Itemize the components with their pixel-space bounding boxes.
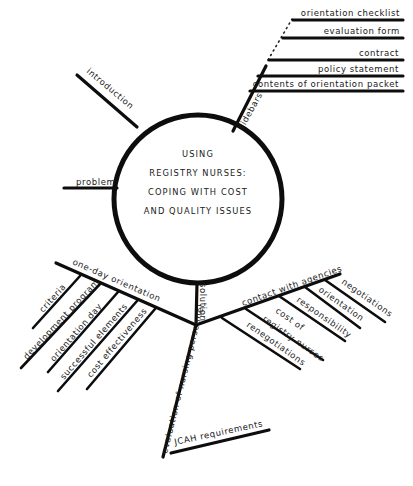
center-title-line-2: REGISTRY NURSES: bbox=[149, 168, 246, 178]
contact-with-agencies-label: contact with agencies bbox=[240, 263, 343, 308]
branch-sidebars: sidebars orientation checklist evaluatio… bbox=[233, 8, 403, 131]
sidebar-item-policy-statement: policy statement bbox=[318, 64, 399, 74]
sidebar-item-contract: contract bbox=[359, 48, 399, 58]
branch-introduction: introduction bbox=[77, 66, 137, 127]
center-title-line-4: AND QUALITY ISSUES bbox=[144, 206, 252, 216]
sidebar-item-evaluation-form: evaluation form bbox=[324, 26, 400, 36]
problem-label: problem bbox=[76, 177, 115, 187]
branch-problem: problem bbox=[64, 177, 117, 188]
central-node: USING REGISTRY NURSES: COPING WITH COST … bbox=[114, 115, 282, 283]
sidebar-item-contents-of-orientation-packet: contents of orientation packet bbox=[253, 79, 399, 89]
center-title-line-1: USING bbox=[182, 149, 214, 159]
sidebar-item-orientation-checklist: orientation checklist bbox=[301, 8, 400, 18]
center-title-line-3: COPING WITH COST bbox=[148, 187, 248, 197]
mind-map-diagram: USING REGISTRY NURSES: COPING WITH COST … bbox=[0, 0, 413, 486]
